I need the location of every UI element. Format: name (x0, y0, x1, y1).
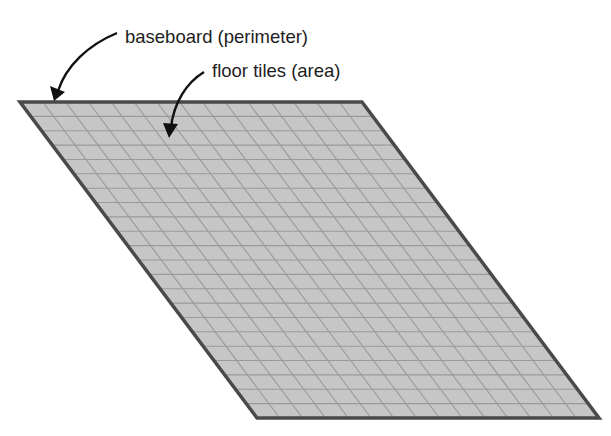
perimeter-arrow (50, 33, 117, 101)
perimeter-label: baseboard (perimeter) (125, 26, 308, 47)
floor (20, 102, 599, 418)
area-label: floor tiles (area) (212, 60, 341, 81)
diagram-canvas: baseboard (perimeter) floor tiles (area) (0, 0, 611, 436)
arrowhead-icon (50, 86, 65, 101)
